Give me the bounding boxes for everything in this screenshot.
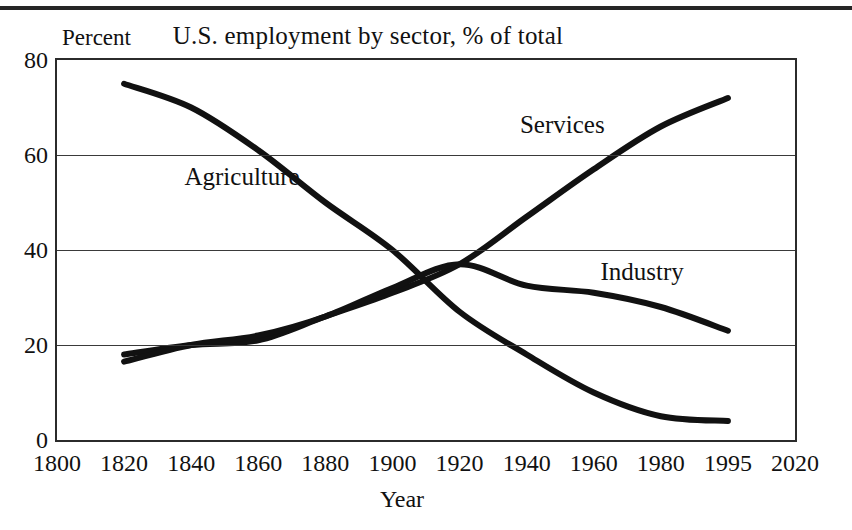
x-axis-tick-labels: 1800182018401860188019001920194019601980… (0, 450, 852, 482)
series-label-services: Services (520, 111, 605, 139)
x-tick-label: 1995 (704, 450, 752, 477)
x-tick-label: 1980 (637, 450, 685, 477)
series-line-agriculture (124, 84, 728, 421)
y-tick-label: 60 (24, 142, 48, 169)
x-tick-label: 2020 (771, 450, 819, 477)
chart-title-text: U.S. employment by sector, % of total (173, 22, 563, 49)
y-axis-title: Percent (62, 25, 131, 51)
series-label-industry: Industry (600, 258, 683, 286)
series-line-services (124, 98, 728, 355)
x-tick-label: 1960 (570, 450, 618, 477)
series-label-agriculture: Agriculture (184, 163, 299, 191)
x-tick-label: 1800 (33, 450, 81, 477)
gridline (57, 345, 795, 346)
x-tick-label: 1820 (100, 450, 148, 477)
x-tick-label: 1880 (301, 450, 349, 477)
gridline (57, 155, 795, 156)
y-tick-label: 40 (24, 237, 48, 264)
x-axis-title: Year (0, 486, 852, 513)
figure-container: U.S. employment by sector, % of total Pe… (0, 0, 852, 530)
y-axis-tick-labels: 020406080 (0, 58, 48, 442)
y-tick-label: 20 (24, 332, 48, 359)
page-top-rule (0, 6, 852, 10)
gridline (57, 250, 795, 251)
x-axis-title-text: Year (380, 486, 424, 512)
plot-area (55, 58, 797, 442)
x-tick-label: 1900 (368, 450, 416, 477)
x-tick-label: 1940 (503, 450, 551, 477)
x-tick-label: 1840 (167, 450, 215, 477)
x-tick-label: 1860 (234, 450, 282, 477)
x-tick-label: 1920 (436, 450, 484, 477)
y-tick-label: 80 (24, 47, 48, 74)
